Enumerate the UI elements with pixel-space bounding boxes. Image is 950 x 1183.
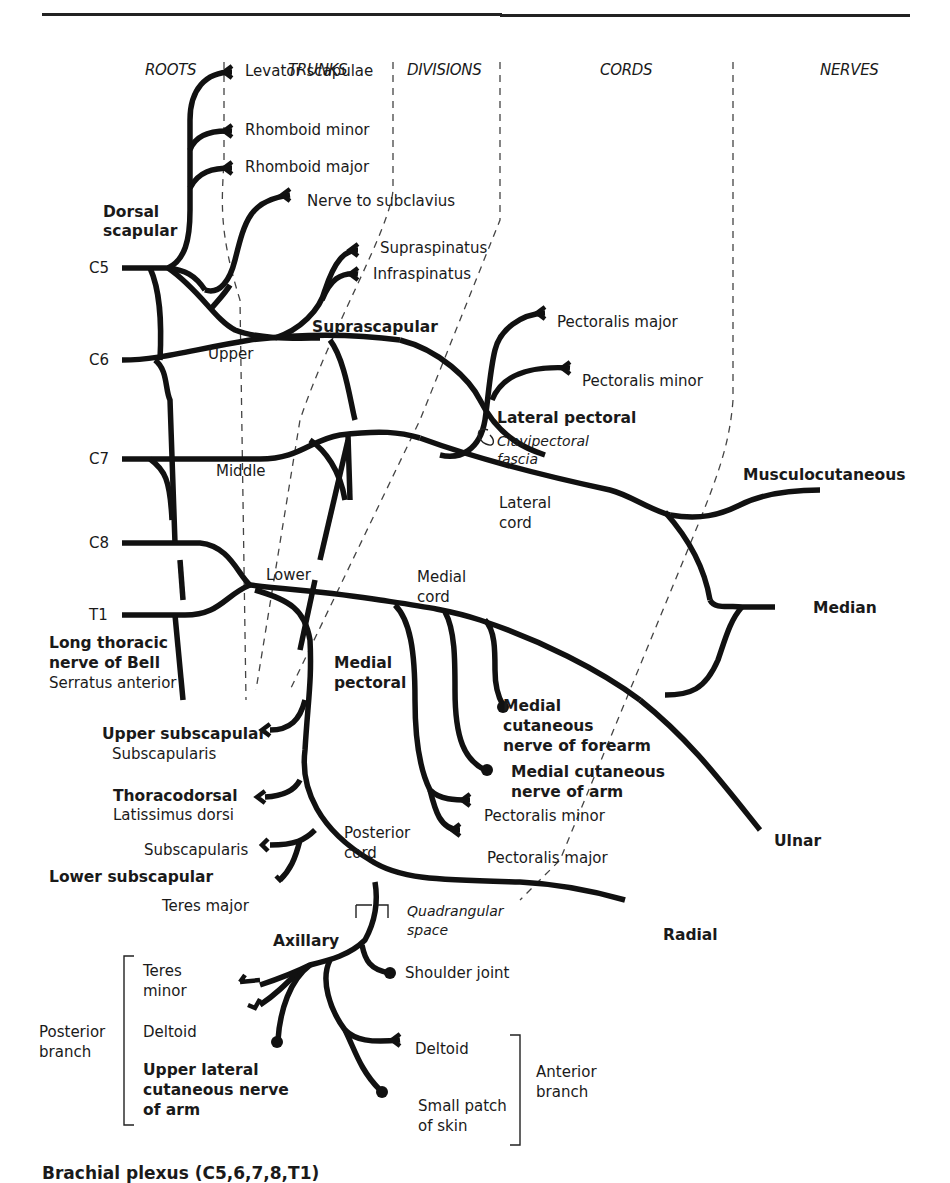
lateral-cord-label-1: Lateral [499,494,551,513]
pectoralis-minor-lateral: Pectoralis minor [582,372,703,391]
divisions [300,340,355,650]
dorsal-scapular-nerve [168,66,232,268]
medial-cord-label-2: cord [417,588,450,607]
lateral-cord-label-2: cord [499,514,532,533]
pectoralis-minor-medial: Pectoralis minor [484,807,605,826]
medial-cord-label-1: Medial [417,568,466,587]
levator-scapulae: Levator scapulae [245,62,373,81]
ulcn-arm-3: of arm [143,1101,200,1120]
upper-subscapular-target: Subscapularis [112,745,216,764]
teres-major: Teres major [162,897,249,916]
lateral-pectoral-label: Lateral pectoral [497,409,636,428]
axillary-label: Axillary [273,932,339,951]
quadrangular-space-2: space [407,921,448,940]
root-c7: C7 [89,450,109,469]
header-divisions: DIVISIONS [407,61,481,80]
small-patch-skin-2: of skin [418,1117,467,1136]
medial-cutaneous-nerves [445,612,509,776]
axillary-nerve [240,882,400,1098]
ulcn-arm-1: Upper lateral [143,1061,258,1080]
deltoid-anterior: Deltoid [415,1040,469,1059]
upper-subscapular-label: Upper subscapular [102,725,266,744]
suprascapular-label: Suprascapular [312,318,438,337]
header-cords: CORDS [600,61,652,80]
small-patch-skin-1: Small patch [418,1097,507,1116]
lateral-cord [420,438,820,600]
long-thoracic-label-2: nerve of Bell [49,654,160,673]
rhomboid-major: Rhomboid major [245,158,369,177]
dorsal-scapular-label-1: Dorsal [103,203,159,222]
lower-subscapular-label: Lower subscapular [49,868,213,887]
nerve-to-subclavius [205,189,290,310]
figure-caption: Brachial plexus (C5,6,7,8,T1) [42,1163,319,1183]
deltoid-posterior: Deltoid [143,1023,197,1042]
dorsal-scapular-label-2: scapular [103,222,177,241]
clavipectoral-fascia-1: Clavipectoral [497,432,589,451]
pectoralis-major-medial: Pectoralis major [487,849,608,868]
header-roots: ROOTS [145,61,196,80]
long-thoracic-label-1: Long thoracic [49,634,168,653]
header-nerves: NERVES [820,61,879,80]
posterior-branch-1: Posterior [39,1023,105,1042]
lower-subscapular-subscapularis: Subscapularis [144,841,248,860]
medial-pectoral-label-1: Medial [334,654,392,673]
trunk-upper: Upper [208,345,253,364]
musculocutaneous-label: Musculocutaneous [743,466,905,485]
trunk-lower: Lower [266,566,311,585]
mcn-forearm-3: nerve of forearm [503,737,651,756]
mcn-arm-2: nerve of arm [511,783,623,802]
mcn-forearm-1: Medial [503,697,561,716]
rhomboid-minor: Rhomboid minor [245,121,370,140]
trunk-middle: Middle [216,462,266,481]
root-t1: T1 [89,606,108,625]
quadrangular-space-1: Quadrangular [407,902,504,921]
radial-label: Radial [663,926,718,945]
nerve-to-subclavius: Nerve to subclavius [307,192,455,211]
root-c8: C8 [89,534,109,553]
mcn-arm-1: Medial cutaneous [511,763,665,782]
median-label: Median [813,599,877,618]
teres-minor-2: minor [143,982,187,1001]
supraspinatus: Supraspinatus [380,239,487,258]
ulnar-label: Ulnar [774,832,821,851]
thoracodorsal-label: Thoracodorsal [113,787,238,806]
teres-minor-1: Teres [143,962,182,981]
mcn-forearm-2: cutaneous [503,717,594,736]
ulcn-arm-2: cutaneous nerve [143,1081,289,1100]
clavipectoral-fascia-2: fascia [497,450,538,469]
posterior-cord-label-2: cord [344,844,377,863]
posterior-branch-2: branch [39,1043,91,1062]
latissimus-dorsi: Latissimus dorsi [113,806,234,825]
medial-pectoral-label-2: pectoral [334,674,406,693]
root-c6: C6 [89,351,109,370]
anterior-branch-2: branch [536,1083,588,1102]
anterior-branch-1: Anterior [536,1063,597,1082]
serratus-anterior: Serratus anterior [49,674,176,693]
posterior-cord-label-1: Posterior [344,824,410,843]
pectoralis-major-lateral: Pectoralis major [557,313,678,332]
infraspinatus: Infraspinatus [373,265,471,284]
median-nerve [665,600,775,695]
root-c5: C5 [89,259,109,278]
shoulder-joint: Shoulder joint [405,964,509,983]
